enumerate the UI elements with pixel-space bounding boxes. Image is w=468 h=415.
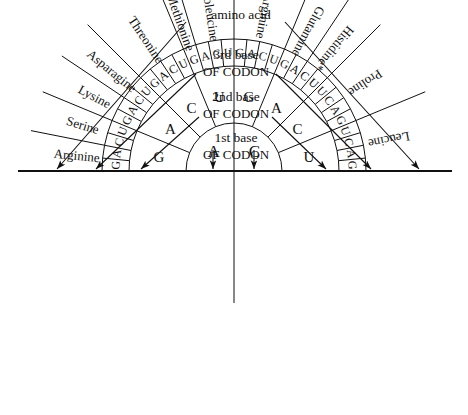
label-3rd-base-line2: OF CODON (2, 65, 468, 78)
genetic-code-wheel-svg: ACGACUGACUGACUGACUGACUGACUGACUGACUUCAGUC… (0, 0, 468, 415)
ring3-base-31: G (345, 161, 359, 171)
diagram-canvas: ACGACUGACUGACUGACUGACUGACUGACUGACUUCAGUC… (0, 0, 468, 415)
label-1st-base-line2: OF CODON (2, 148, 468, 161)
label-3rd-base-line1: 3rd base (2, 48, 468, 62)
label-2nd-base-line2: OF CODON (2, 107, 468, 120)
label-1st-base-line1: 1st base (2, 131, 468, 145)
ring3-base-0: G (108, 160, 122, 170)
label-2nd-base-line1: 2nd base (2, 90, 468, 104)
label-amino-acid: amino acid (7, 8, 468, 22)
